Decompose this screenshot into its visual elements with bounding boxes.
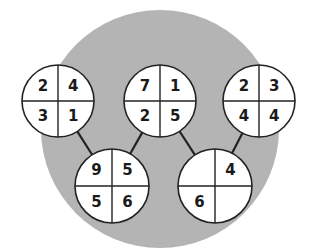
quadrant-value-bottom-left: 6 — [194, 193, 204, 211]
quadrant-value-bottom-left: 4 — [239, 107, 249, 125]
quadrant-value-top-left: 2 — [38, 77, 48, 95]
circle-top-middle: 7125 — [124, 65, 196, 137]
quadrant-value-top-right: 4 — [225, 161, 235, 179]
circle-bottom-left: 9556 — [75, 149, 149, 223]
quadrant-value-top-right: 1 — [170, 77, 180, 95]
quadrant-value-bottom-left: 2 — [140, 107, 150, 125]
number-circle-puzzle: 243171252344955646 — [0, 0, 319, 249]
quadrant-value-bottom-right: 5 — [170, 107, 180, 125]
quadrant-value-top-right: 5 — [122, 161, 132, 179]
quadrant-value-bottom-right: 1 — [68, 107, 78, 125]
quadrant-value-bottom-right: 4 — [269, 107, 279, 125]
quadrant-value-top-left: 2 — [239, 77, 249, 95]
quadrant-value-top-left: 9 — [91, 161, 101, 179]
quadrant-value-top-right: 4 — [68, 77, 78, 95]
quadrant-value-bottom-right: 6 — [122, 193, 132, 211]
quadrant-value-bottom-left: 3 — [38, 107, 48, 125]
circle-top-left: 2431 — [22, 65, 94, 137]
circle-top-right: 2344 — [223, 65, 295, 137]
quadrant-value-bottom-left: 5 — [91, 193, 101, 211]
circle-bottom-right: 46 — [178, 149, 252, 223]
quadrant-value-top-right: 3 — [269, 77, 279, 95]
quadrant-value-top-left: 7 — [140, 77, 150, 95]
